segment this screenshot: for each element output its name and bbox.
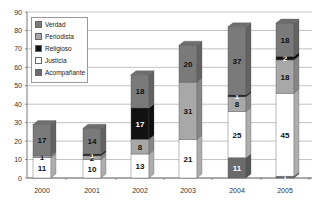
svg-text:20: 20 [184, 60, 193, 69]
bar-2001: 102114 [83, 124, 106, 178]
legend-item-justicia: Justicia [32, 54, 87, 66]
svg-text:18: 18 [281, 36, 290, 45]
legend-label: Verdad [45, 21, 66, 28]
svg-text:2004: 2004 [229, 187, 245, 194]
svg-text:8: 8 [235, 100, 240, 109]
svg-text:17: 17 [136, 120, 145, 129]
svg-text:0: 0 [18, 175, 22, 182]
legend-swatch [35, 69, 42, 76]
svg-text:2003: 2003 [180, 187, 196, 194]
svg-text:18: 18 [281, 73, 290, 82]
legend-label: Acompañante [45, 69, 85, 76]
svg-text:37: 37 [233, 57, 242, 66]
legend-swatch [35, 45, 42, 52]
svg-text:17: 17 [38, 136, 47, 145]
bar-2003: 213120 [179, 41, 202, 178]
svg-text:2001: 2001 [84, 187, 100, 194]
chart-legend: Verdad Periodista Religioso Justicia Aco… [31, 17, 88, 83]
svg-text:2002: 2002 [132, 187, 148, 194]
svg-text:11: 11 [233, 164, 242, 173]
legend-label: Justicia [45, 57, 67, 64]
legend-swatch [35, 21, 42, 28]
svg-text:14: 14 [88, 137, 97, 146]
svg-text:20: 20 [14, 138, 22, 145]
svg-text:80: 80 [14, 27, 22, 34]
svg-text:40: 40 [14, 101, 22, 108]
x-axis: 200020012002200320042005 [34, 178, 309, 194]
svg-text:18: 18 [136, 87, 145, 96]
bar-2000: 11117 [33, 121, 56, 178]
svg-text:31: 31 [184, 107, 193, 116]
legend-swatch [35, 57, 42, 64]
svg-text:90: 90 [14, 9, 22, 16]
svg-text:30: 30 [14, 119, 22, 126]
svg-text:11: 11 [38, 164, 47, 173]
legend-item-acompanante: Acompañante [32, 66, 87, 78]
svg-text:45: 45 [281, 131, 290, 140]
svg-text:60: 60 [14, 64, 22, 71]
svg-text:13: 13 [136, 162, 145, 171]
svg-text:50: 50 [14, 82, 22, 89]
bar-2002: 1381718 [131, 71, 154, 178]
svg-text:70: 70 [14, 45, 22, 52]
svg-text:10: 10 [88, 165, 97, 174]
legend-label: Periodista [45, 33, 74, 40]
svg-text:8: 8 [138, 143, 143, 152]
svg-text:2005: 2005 [277, 187, 293, 194]
legend-item-periodista: Periodista [32, 30, 87, 42]
legend-swatch [35, 33, 42, 40]
svg-text:21: 21 [184, 155, 193, 164]
legend-item-religioso: Religioso [32, 42, 87, 54]
legend-label: Religioso [45, 45, 72, 52]
svg-text:2000: 2000 [34, 187, 50, 194]
bar-2004: 11258137 [228, 23, 251, 178]
legend-item-verdad: Verdad [32, 18, 87, 30]
svg-text:10: 10 [14, 156, 22, 163]
svg-text:25: 25 [233, 131, 242, 140]
bar-2005: 14518218 [276, 19, 299, 182]
